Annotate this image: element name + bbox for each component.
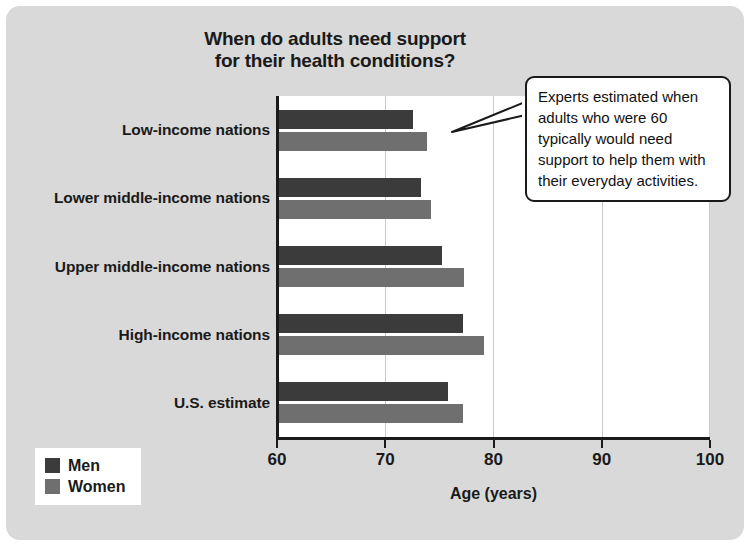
- category-label-1: Lower middle-income nations: [8, 189, 270, 207]
- callout-line-4: support to help them with: [538, 149, 720, 170]
- bar-men-2: [277, 246, 442, 265]
- x-tick-label-80: 80: [484, 450, 503, 470]
- x-tick-label-100: 100: [696, 450, 724, 470]
- category-label-2: Upper middle-income nations: [8, 258, 270, 276]
- chart-legend: Men Women: [35, 448, 141, 505]
- bar-men-4: [277, 382, 448, 401]
- x-tick-70: [384, 440, 386, 448]
- legend-label-men: Men: [68, 457, 100, 475]
- callout-line-1: Experts estimated when: [538, 86, 720, 107]
- legend-item-men: Men: [45, 455, 125, 476]
- x-tick-label-60: 60: [268, 450, 287, 470]
- bar-women-4: [277, 404, 463, 423]
- x-tick-90: [601, 440, 603, 448]
- callout-line-3: typically would need: [538, 128, 720, 149]
- legend-swatch-women-icon: [45, 479, 60, 494]
- bar-women-2: [277, 268, 464, 287]
- x-tick-label-70: 70: [376, 450, 395, 470]
- legend-item-women: Women: [45, 476, 125, 497]
- legend-swatch-men-icon: [45, 458, 60, 473]
- callout-pointer-icon: [452, 98, 532, 138]
- gridline-80: [493, 96, 494, 437]
- bar-men-1: [277, 178, 421, 197]
- x-tick-80: [493, 440, 495, 448]
- category-label-0: Low-income nations: [8, 121, 270, 139]
- x-tick-60: [276, 440, 278, 448]
- chart-figure: When do adults need support for their he…: [0, 0, 752, 547]
- category-label-3: High-income nations: [8, 326, 270, 344]
- callout-line-5: their everyday activities.: [538, 170, 720, 191]
- category-label-4: U.S. estimate: [8, 394, 270, 412]
- x-tick-100: [709, 440, 711, 448]
- legend-label-women: Women: [68, 478, 125, 496]
- bar-women-0: [277, 132, 427, 151]
- x-axis-label: Age (years): [277, 485, 710, 503]
- x-tick-label-90: 90: [592, 450, 611, 470]
- bar-women-3: [277, 336, 484, 355]
- callout-line-2: adults who were 60: [538, 107, 720, 128]
- bar-women-1: [277, 200, 431, 219]
- callout-annotation: Experts estimated when adults who were 6…: [525, 76, 731, 202]
- bar-men-0: [277, 110, 413, 129]
- bar-men-3: [277, 314, 463, 333]
- y-axis-line: [276, 96, 279, 438]
